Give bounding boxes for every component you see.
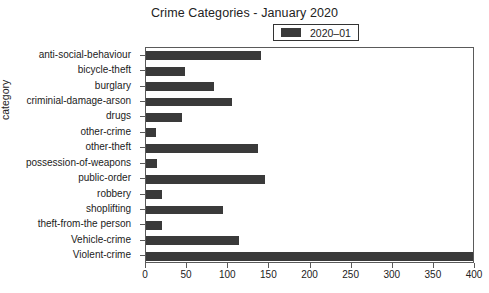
x-axis-tick-label: 300 (383, 269, 400, 281)
y-axis-tick-label: burglary (95, 81, 131, 91)
y-axis-tick-label: public-order (78, 173, 131, 183)
bar (146, 175, 265, 184)
y-axis-tick-label: other-theft (85, 142, 131, 152)
chart-legend: 2020–01 (273, 24, 359, 41)
y-axis-tick-label: bicycle-theft (78, 65, 131, 75)
x-axis-tick-label: 350 (425, 269, 442, 281)
bar (146, 236, 239, 245)
y-axis-tick-label: Violent-crime (73, 250, 131, 260)
x-axis-tick (392, 263, 393, 268)
y-axis-tick-labels: anti-social-behaviourbicycle-theftburgla… (0, 47, 140, 263)
bar (146, 252, 473, 261)
x-axis-ticks (145, 263, 474, 268)
y-axis-title: category (0, 80, 11, 120)
x-axis-tick-labels: 050100150200250300350400 (145, 269, 474, 283)
x-axis-tick (433, 263, 434, 268)
x-axis-tick-label: 200 (301, 269, 318, 281)
x-axis-tick (351, 263, 352, 268)
x-axis-tick-label: 0 (142, 269, 148, 281)
legend-entry-0: 2020–01 (281, 27, 351, 39)
plot-area (145, 47, 474, 263)
bar (146, 190, 162, 199)
legend-label: 2020–01 (310, 27, 351, 39)
x-axis-tick-label: 100 (219, 269, 236, 281)
x-axis-tick (310, 263, 311, 268)
bar (146, 221, 162, 230)
bar (146, 51, 261, 60)
bar (146, 113, 182, 122)
x-axis-tick-label: 250 (342, 269, 359, 281)
y-axis-tick-label: shoplifting (86, 204, 131, 214)
chart-figure: Crime Categories - January 2020 2020–01 … (0, 0, 489, 293)
legend-swatch-icon (281, 28, 301, 37)
x-axis-tick (474, 263, 475, 268)
bar (146, 128, 156, 137)
y-axis-tick-label: anti-social-behaviour (39, 50, 131, 60)
chart-title: Crime Categories - January 2020 (0, 6, 489, 20)
x-axis-tick (186, 263, 187, 268)
bar (146, 67, 185, 76)
y-axis-tick-label: Vehicle-crime (71, 235, 131, 245)
bars-layer (146, 48, 473, 262)
y-axis-tick-label: drugs (106, 111, 131, 121)
x-axis-tick (145, 263, 146, 268)
bar (146, 144, 258, 153)
bar (146, 82, 214, 91)
x-axis-tick-label: 150 (260, 269, 277, 281)
bar (146, 206, 223, 215)
x-axis-tick-label: 400 (466, 269, 483, 281)
y-axis-tick-label: robbery (97, 189, 131, 199)
y-axis-tick-label: criminial-damage-arson (27, 96, 131, 106)
y-axis-tick-label: other-crime (80, 127, 131, 137)
y-axis-tick-label: possession-of-weapons (26, 158, 131, 168)
x-axis-tick (268, 263, 269, 268)
y-axis-tick-label: theft-from-the person (38, 219, 131, 229)
x-axis-tick (227, 263, 228, 268)
bar (146, 159, 157, 168)
x-axis-tick-label: 50 (181, 269, 192, 281)
bar (146, 98, 232, 107)
